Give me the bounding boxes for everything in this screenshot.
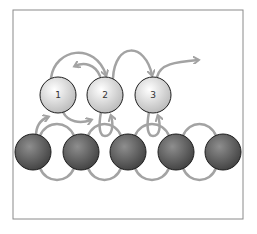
top-node-3-label: 3 [150, 90, 156, 100]
bottom-ball [205, 134, 241, 170]
bottom-ball [158, 134, 194, 170]
diagram-frame [13, 10, 243, 219]
bottom-ball [15, 134, 51, 170]
top-node-1-label: 1 [55, 90, 61, 100]
top-node-2-label: 2 [102, 90, 108, 100]
bottom-ball [63, 134, 99, 170]
hopping-diagram: 1 2 3 [0, 0, 257, 234]
top-nodes: 1 2 3 [40, 77, 171, 113]
bottom-ball [110, 134, 146, 170]
